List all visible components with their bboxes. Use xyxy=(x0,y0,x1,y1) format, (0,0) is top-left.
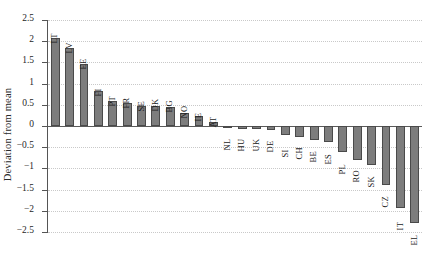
y-tick-label: 0 xyxy=(29,119,34,129)
bar-label-hu: HU xyxy=(237,138,246,151)
bar-label-uk: UK xyxy=(251,139,260,152)
bar-label-cz: CZ xyxy=(381,196,390,207)
bar-label-de: DE xyxy=(266,140,275,152)
bar-label-lv: LV xyxy=(64,43,73,54)
chart-figure: Deviation from mean 2.521.510.50−0.5−1−1… xyxy=(0,0,436,269)
bar-label-dk: DK xyxy=(151,99,160,112)
y-tick-label: 2 xyxy=(29,34,34,44)
y-tick-label: 1.5 xyxy=(22,55,34,65)
bar-label-el: EL xyxy=(410,235,419,246)
bar-el xyxy=(410,126,419,223)
bar-label-ee: EE xyxy=(79,58,88,69)
bar-label-bg: BG xyxy=(165,100,174,112)
bar-lt xyxy=(51,38,60,126)
bar-series: LTLVEEFIPTFRSEDKBGNOIEATNLHUUKDESICHBEES… xyxy=(48,20,422,232)
bar-sk xyxy=(367,126,376,165)
y-tick-mark: −2.5 xyxy=(42,232,48,233)
y-tick-label: −1 xyxy=(24,161,34,171)
bar-label-pt: PT xyxy=(107,96,116,107)
bar-uk xyxy=(252,126,261,129)
bar-label-ro: RO xyxy=(352,170,361,182)
y-tick-label: −2 xyxy=(24,204,34,214)
y-axis-title: Deviation from mean xyxy=(0,0,16,269)
bar-ee xyxy=(80,64,89,126)
bar-label-fr: FR xyxy=(122,98,131,109)
bar-lv xyxy=(65,48,74,126)
y-tick-label: 2.5 xyxy=(22,13,34,23)
bar-de xyxy=(267,126,276,130)
bar-si xyxy=(281,126,290,135)
bar-label-at: AT xyxy=(208,116,217,127)
plot-area: 2.521.510.50−0.5−1−1.5−2−2.5 LTLVEEFIPTF… xyxy=(48,20,422,232)
bar-label-be: BE xyxy=(309,151,318,162)
bar-hu xyxy=(238,126,247,129)
y-tick-label: 0.5 xyxy=(22,98,34,108)
bar-cz xyxy=(382,126,391,185)
bar-it xyxy=(396,126,405,208)
bar-label-no: NO xyxy=(179,106,188,119)
gridline xyxy=(48,232,422,233)
bar-be xyxy=(310,126,319,140)
bar-label-sk: SK xyxy=(366,176,375,187)
bar-pl xyxy=(338,126,347,152)
bar-ch xyxy=(295,126,304,137)
y-tick-label: −0.5 xyxy=(17,140,34,150)
bar-label-ch: CH xyxy=(294,148,303,160)
bar-ro xyxy=(353,126,362,160)
bar-es xyxy=(324,126,333,142)
bar-label-pl: PL xyxy=(338,164,347,175)
bar-label-nl: NL xyxy=(223,138,232,150)
bar-label-it: IT xyxy=(395,222,404,231)
y-tick-label: −2.5 xyxy=(17,225,34,235)
bar-label-si: SI xyxy=(280,150,289,158)
bar-label-se: SE xyxy=(136,101,145,112)
bar-label-ie: IE xyxy=(194,113,203,122)
y-tick-label: −1.5 xyxy=(17,183,34,193)
bar-label-lt: LT xyxy=(50,34,59,44)
y-tick-label: 1 xyxy=(29,77,34,87)
bar-label-fi: FI xyxy=(93,88,102,96)
bar-label-es: ES xyxy=(323,154,332,165)
bar-nl xyxy=(223,126,232,128)
